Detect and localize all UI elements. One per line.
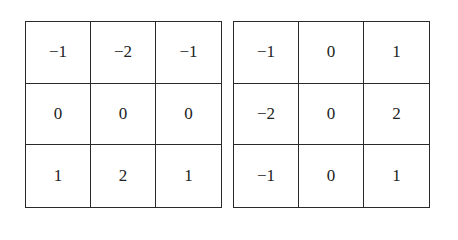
matrix-cell: 0 [91, 84, 156, 146]
matrix-cell: 0 [299, 22, 364, 84]
matrix-cell: 0 [26, 84, 91, 146]
matrix-cell: 2 [364, 84, 429, 146]
matrix-cell: −1 [234, 22, 299, 84]
matrix-cell: −1 [234, 145, 299, 207]
matrix-cell: −1 [156, 22, 221, 84]
matrix-cell: 0 [156, 84, 221, 146]
matrix-cell: 1 [26, 145, 91, 207]
matrix-cell: 0 [299, 84, 364, 146]
matrix-cell: 1 [364, 145, 429, 207]
matrix-cell: 1 [156, 145, 221, 207]
matrix-cell: 1 [364, 22, 429, 84]
matrix-cell: −1 [26, 22, 91, 84]
matrix-cell: −2 [91, 22, 156, 84]
kernel-matrix-left: −1 −2 −1 0 0 0 1 2 1 [25, 21, 222, 208]
kernel-matrix-right: −1 0 1 −2 0 2 −1 0 1 [233, 21, 430, 208]
matrix-cell: 0 [299, 145, 364, 207]
matrix-cell: 2 [91, 145, 156, 207]
matrix-cell: −2 [234, 84, 299, 146]
